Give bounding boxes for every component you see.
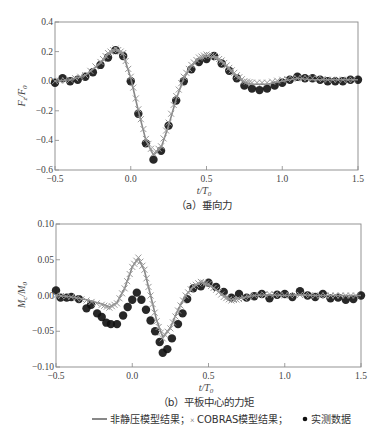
y-tick-label: −0.05 (32, 326, 54, 336)
y-tick-label: 0.05 (37, 255, 54, 265)
y-tick-label: 0.4 (41, 17, 53, 27)
measured-data-point (168, 334, 176, 342)
legend-dot-swatch (303, 417, 308, 422)
chart-b-ylabel: Mc/M0 (16, 281, 29, 309)
measured-data-point (119, 311, 127, 319)
y-tick-label: −0.4 (36, 135, 53, 145)
chart-b: 0.100.050.00−0.05−0.10 −0.50.00.51.01.5 … (16, 219, 367, 408)
legend-cross-label: COBRAS模型结果； (197, 413, 288, 425)
measured-data-point (123, 303, 131, 311)
measured-data-point (178, 309, 186, 317)
chart-a-x-ticks: −0.50.00.51.01.5 (46, 166, 364, 184)
measured-data-point (163, 345, 171, 353)
chart-b-series (52, 255, 365, 357)
x-tick-label: −0.5 (46, 174, 63, 184)
measured-data-point (133, 288, 141, 296)
x-tick-label: 0.5 (201, 174, 213, 184)
cobras-marker (133, 258, 139, 264)
measured-data-point (128, 296, 136, 304)
measured-data-point (146, 316, 154, 324)
measured-data-point (342, 296, 350, 304)
chart-b-x-ticks: −0.50.00.51.01.5 (47, 363, 367, 381)
y-tick-label: 0.2 (41, 47, 53, 57)
chart-a-caption: （a）垂向力 (176, 199, 232, 211)
cobras-marker (131, 261, 137, 267)
measured-data-point (113, 320, 121, 328)
x-tick-label: −0.5 (47, 371, 64, 381)
legend-dot-label: 实测数据 (311, 413, 351, 425)
chart-b-xlabel: t/T0 (199, 382, 214, 395)
chart-b-caption: （b）平板中心的力矩 (158, 396, 255, 408)
x-tick-label: 0.0 (126, 371, 138, 381)
x-tick-label: 0.0 (125, 174, 137, 184)
chart-a: 0.40.20.0−0.2−0.4−0.6 −0.50.00.51.01.5 F… (16, 17, 364, 211)
figure: 0.40.20.0−0.2−0.4−0.6 −0.50.00.51.01.5 F… (0, 0, 378, 436)
measured-data-point (151, 327, 159, 335)
y-tick-label: 0.00 (37, 291, 54, 301)
x-tick-label: 1.5 (355, 371, 367, 381)
measured-data-point (319, 290, 327, 298)
measured-data-point (137, 296, 145, 304)
x-tick-label: 1.0 (279, 371, 291, 381)
legend-cross-swatch: × (190, 416, 195, 425)
x-tick-label: 1.0 (276, 174, 288, 184)
x-tick-label: 0.5 (203, 371, 215, 381)
chart-a-xlabel: t/T0 (197, 185, 212, 198)
chart-a-plot-area (55, 22, 358, 170)
legend: 非静压模型结果； × COBRAS模型结果； 实测数据 (92, 413, 351, 425)
measured-data-point (255, 86, 263, 94)
chart-a-ylabel: Fz/F0 (16, 85, 29, 108)
y-tick-label: 0.10 (37, 219, 54, 229)
y-tick-label: −0.2 (36, 106, 53, 116)
measured-data-point (331, 77, 339, 85)
x-tick-label: 1.5 (352, 174, 364, 184)
measured-data-point (142, 306, 150, 314)
chart-a-y-ticks: 0.40.20.0−0.2−0.4−0.6 (36, 17, 59, 175)
legend-line-label: 非静压模型结果； (110, 413, 190, 425)
chart-a-series (51, 46, 362, 164)
